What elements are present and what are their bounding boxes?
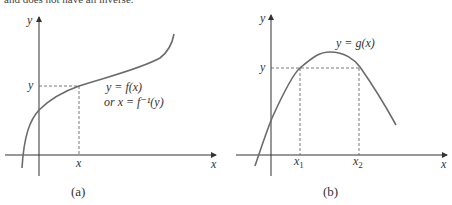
tick-x-a: x <box>75 156 82 170</box>
panel-b: y x y x1 x2 y = g(x) (b) <box>236 11 447 199</box>
figure: y x y x y = f(x) or x = f⁻¹(y) (a) y x y… <box>0 0 452 205</box>
tick-y-b: y <box>259 60 266 74</box>
curve-label-a-2: or x = f⁻¹(y) <box>104 95 164 109</box>
caption-b: (b) <box>323 184 338 199</box>
tick-x1-sub: 1 <box>299 160 304 170</box>
tick-y-a: y <box>27 78 34 92</box>
curve-g <box>255 52 396 166</box>
caption-a: (a) <box>71 184 85 199</box>
y-axis-label-a: y <box>26 13 33 27</box>
tick-x2-sub: 2 <box>358 160 363 170</box>
panel-a: y x y x y = f(x) or x = f⁻¹(y) (a) <box>5 13 217 199</box>
y-axis-label-b: y <box>259 11 266 25</box>
tick-x2-b: x2 <box>352 154 363 170</box>
x-axis-label-a: x <box>210 157 217 171</box>
curve-label-b: y = g(x) <box>335 36 375 50</box>
curve-label-a-1: y = f(x) <box>105 80 142 94</box>
tick-x1-b: x1 <box>293 154 304 170</box>
x-axis-label-b: x <box>440 157 447 171</box>
